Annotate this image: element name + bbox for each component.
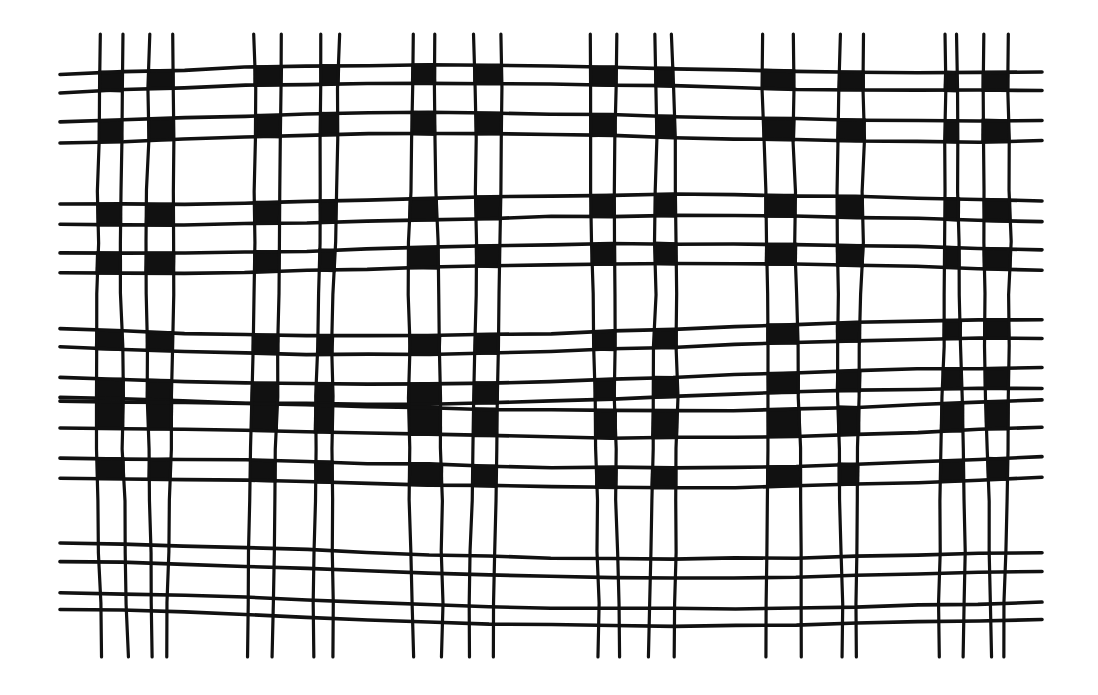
artwork-canvas: Hand-drawn plaid lattice pattern A hand-…	[0, 0, 1098, 695]
filled-square	[95, 400, 124, 430]
filled-square	[98, 119, 123, 143]
filled-square	[147, 117, 174, 141]
filled-square	[651, 409, 679, 439]
filled-square	[147, 401, 174, 431]
filled-square	[408, 406, 442, 436]
filled-square	[250, 382, 278, 405]
filled-square	[940, 402, 965, 432]
filled-square	[767, 408, 801, 438]
filled-square	[144, 252, 175, 275]
filled-square	[250, 402, 278, 432]
filled-square	[408, 382, 442, 405]
filled-square	[985, 401, 1010, 431]
filled-square	[408, 463, 444, 486]
plaid-lattice-drawing: Hand-drawn plaid lattice pattern A hand-…	[0, 0, 1098, 695]
filled-square	[472, 407, 498, 437]
